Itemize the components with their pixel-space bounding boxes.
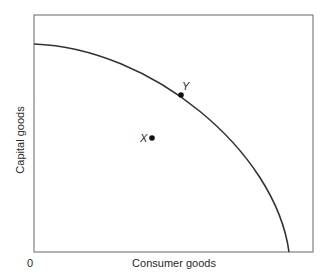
point-y-marker bbox=[178, 92, 184, 98]
ppf-diagram: Y X 0 Consumer goods Capital goods bbox=[0, 0, 328, 279]
point-x-label: X bbox=[139, 132, 148, 144]
point-y-label: Y bbox=[182, 80, 190, 92]
x-axis-label: Consumer goods bbox=[132, 257, 216, 269]
plot-frame bbox=[34, 15, 313, 252]
point-x-marker bbox=[149, 135, 155, 141]
origin-label: 0 bbox=[27, 257, 33, 269]
ppf-curve bbox=[34, 44, 289, 252]
y-axis-label: Capital goods bbox=[14, 106, 26, 174]
